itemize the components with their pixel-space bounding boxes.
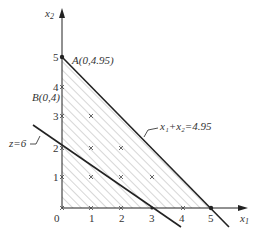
y-tick-1: 1 [53,171,59,183]
lp-diagram: 0 1 2 3 4 5 1 2 3 4 5 x1 x2 A(0,4.95) B(… [0,0,264,232]
constraint-leader [144,128,158,137]
y-tick-2: 2 [53,142,59,154]
origin-label: 0 [54,212,60,224]
y-axis-arrow-icon [59,8,65,18]
point-3-0-marker [150,206,153,209]
y-tick-3: 3 [53,110,59,122]
x-axis-label: x1 [239,212,249,226]
x-tick-1: 1 [89,212,95,224]
y-tick-5: 5 [53,51,59,63]
y-axis-label: x2 [44,7,54,21]
x-tick-4: 4 [179,212,185,224]
objective-leader [30,136,40,144]
point-b-label: B(0,4) [32,91,60,104]
x-tick-2: 2 [119,212,125,224]
x-tick-5: 5 [208,212,214,224]
x-axis-arrow-icon [238,205,248,211]
objective-line-label: z=6 [8,137,27,149]
point-a-marker [60,55,64,59]
point-a-label: A(0,4.95) [71,54,114,67]
constraint-line-label: x₁+x₂=4.95 [159,120,212,132]
point-5-0-marker [209,206,213,210]
x-tick-3: 3 [149,212,155,224]
